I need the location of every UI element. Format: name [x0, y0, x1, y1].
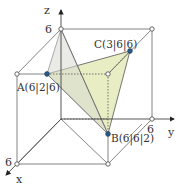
x-axis-label: x: [16, 173, 23, 186]
x-axis: [6, 119, 61, 175]
x-tick-6: 6: [5, 156, 12, 169]
z-tick-6: 6: [45, 23, 52, 36]
point-a: [45, 72, 50, 77]
point-b-label: B(6|6|2): [111, 132, 154, 146]
point-b: [106, 132, 111, 137]
coordinate-diagram: z 6 y 6 x 6 A(6|2|6) B(6|6|2) C(3|6|6): [0, 0, 182, 186]
y-axis-label: y: [167, 126, 175, 139]
point-a-label: A(6|2|6): [16, 81, 60, 95]
z-axis-label: z: [44, 4, 50, 17]
point-c-label: C(3|6|6): [94, 38, 137, 52]
